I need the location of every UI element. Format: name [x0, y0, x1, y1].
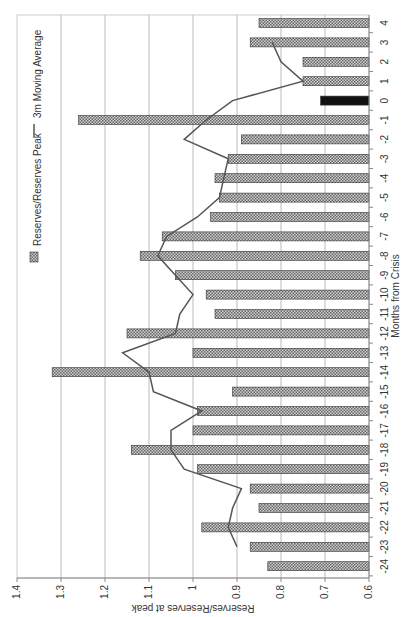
- bar: [268, 562, 369, 571]
- bar: [193, 426, 369, 435]
- bar: [250, 484, 369, 493]
- category-axis-title: Months from Crisis: [390, 254, 401, 337]
- category-tick-label: -11: [379, 307, 390, 321]
- value-tick-label: 1.3: [55, 585, 66, 599]
- category-tick-label: -14: [379, 365, 390, 380]
- bar: [250, 542, 369, 551]
- value-tick-label: 1.2: [99, 585, 110, 599]
- legend-bar-swatch: [30, 252, 38, 262]
- category-tick-label: -15: [379, 384, 390, 399]
- value-axis: 0.60.70.80.911.11.21.31.4: [11, 578, 374, 599]
- reserves-chart: -24-23-22-21-20-19-18-17-16-15-14-13-12-…: [0, 0, 406, 617]
- bar: [202, 523, 369, 532]
- value-tick-label: 0.6: [363, 585, 374, 599]
- category-tick-label: -1: [379, 115, 390, 124]
- category-tick-label: -17: [379, 423, 390, 438]
- bar: [197, 407, 369, 416]
- category-tick-label: -6: [379, 212, 390, 221]
- value-tick-label: 0.8: [275, 585, 286, 599]
- category-tick-label: -23: [379, 539, 390, 554]
- bar: [233, 387, 369, 396]
- bar: [303, 77, 369, 86]
- bar: [162, 232, 369, 241]
- legend-line-label: 3m Moving Average: [32, 29, 43, 118]
- category-tick-label: -2: [379, 135, 390, 144]
- bar: [250, 38, 369, 47]
- category-tick-label: 4: [379, 20, 390, 26]
- bar: [79, 116, 369, 125]
- category-tick-label: -19: [379, 462, 390, 477]
- bar: [211, 213, 369, 222]
- bar: [52, 368, 369, 377]
- category-tick-label: -10: [379, 287, 390, 302]
- category-tick-label: -21: [379, 500, 390, 515]
- category-tick-label: -7: [379, 232, 390, 241]
- bar: [206, 290, 369, 299]
- legend: Reserves/Reserves Peak 3m Moving Average: [30, 29, 43, 262]
- bar: [131, 445, 369, 454]
- bar: [228, 154, 369, 163]
- category-tick-label: -20: [379, 481, 390, 496]
- category-tick-label: 0: [379, 97, 390, 103]
- bar: [175, 271, 369, 280]
- category-tick-label: -22: [379, 520, 390, 535]
- value-axis-title: Reserves/Reserves at peak: [131, 603, 255, 614]
- category-tick-label: -13: [379, 345, 390, 360]
- value-tick-label: 1: [187, 585, 198, 591]
- category-tick-label: 2: [379, 59, 390, 65]
- legend-bar-label: Reserves/Reserves Peak: [32, 132, 43, 246]
- bar: [127, 329, 369, 338]
- category-tick-label: -24: [379, 559, 390, 574]
- bar: [193, 348, 369, 357]
- bar: [197, 465, 369, 474]
- category-tick-label: -9: [379, 270, 390, 279]
- bar-crisis-month: [321, 96, 369, 105]
- category-tick-label: -3: [379, 154, 390, 163]
- bar: [219, 193, 369, 202]
- category-tick-label: -5: [379, 193, 390, 202]
- value-tick-label: 0.7: [319, 585, 330, 599]
- value-tick-label: 1.1: [143, 585, 154, 599]
- value-tick-label: 1.4: [11, 585, 22, 599]
- category-axis: -24-23-22-21-20-19-18-17-16-15-14-13-12-…: [369, 20, 390, 576]
- category-tick-label: -18: [379, 442, 390, 457]
- bar: [215, 310, 369, 319]
- bar: [241, 135, 369, 144]
- value-tick-label: 0.9: [231, 585, 242, 599]
- bar: [259, 19, 369, 28]
- bar: [259, 504, 369, 513]
- bar: [303, 57, 369, 66]
- category-tick-label: 3: [379, 39, 390, 45]
- category-tick-label: -4: [379, 173, 390, 182]
- bar: [215, 174, 369, 183]
- category-tick-label: 1: [379, 78, 390, 84]
- category-tick-label: -16: [379, 403, 390, 418]
- bar: [140, 251, 369, 260]
- category-tick-label: -12: [379, 326, 390, 341]
- category-tick-label: -8: [379, 251, 390, 260]
